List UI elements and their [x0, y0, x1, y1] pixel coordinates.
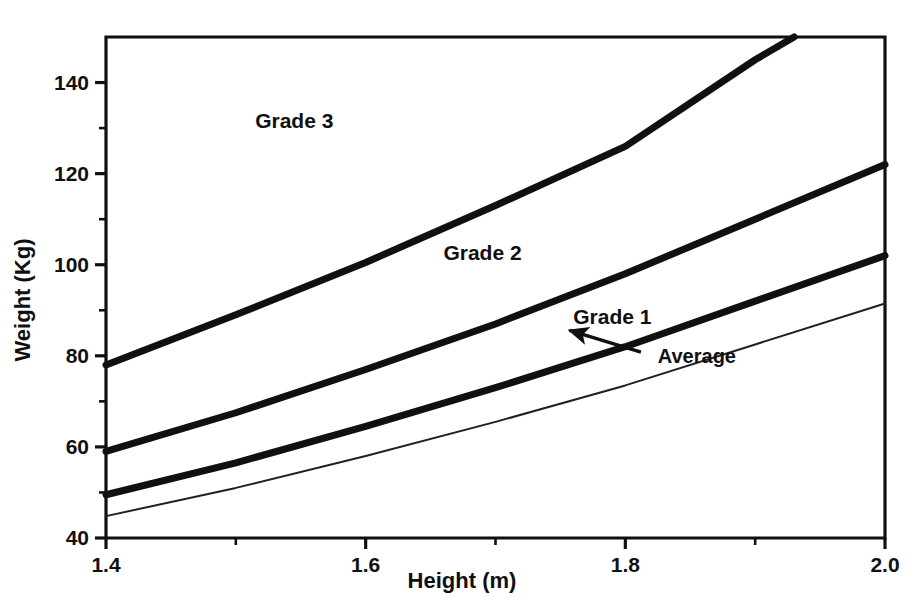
x-tick-label: 1.4: [91, 553, 121, 576]
x-tick-label: 1.8: [611, 553, 641, 576]
y-tick-labels: 406080100120140: [54, 71, 89, 549]
axis-ticks: [95, 83, 885, 549]
region-label: Grade 2: [443, 241, 521, 264]
series-line: [106, 303, 885, 516]
y-tick-label: 120: [54, 162, 89, 185]
x-tick-label: 1.6: [351, 553, 380, 576]
y-tick-label: 60: [66, 435, 89, 458]
region-label: Grade 3: [255, 109, 333, 132]
x-tick-label: 2.0: [870, 553, 899, 576]
annotation-label: Average: [658, 345, 736, 367]
region-labels-layer: Grade 3Grade 2Grade 1: [255, 109, 652, 328]
y-tick-label: 140: [54, 71, 89, 94]
x-axis-title: Height (m): [408, 568, 517, 593]
y-tick-label: 40: [66, 526, 89, 549]
annotation-arrow-icon: [570, 330, 641, 352]
chart-container: 406080100120140 1.41.61.82.0 Grade 3Grad…: [0, 0, 923, 602]
series-line: [106, 256, 885, 495]
y-tick-label: 80: [66, 344, 89, 367]
region-label: Grade 1: [573, 305, 652, 328]
data-series-layer: [106, 37, 885, 516]
y-tick-label: 100: [54, 253, 89, 276]
y-axis-title: Weight (Kg): [10, 238, 35, 361]
weight-height-grade-chart: 406080100120140 1.41.61.82.0 Grade 3Grad…: [0, 0, 923, 602]
series-line: [106, 37, 794, 365]
